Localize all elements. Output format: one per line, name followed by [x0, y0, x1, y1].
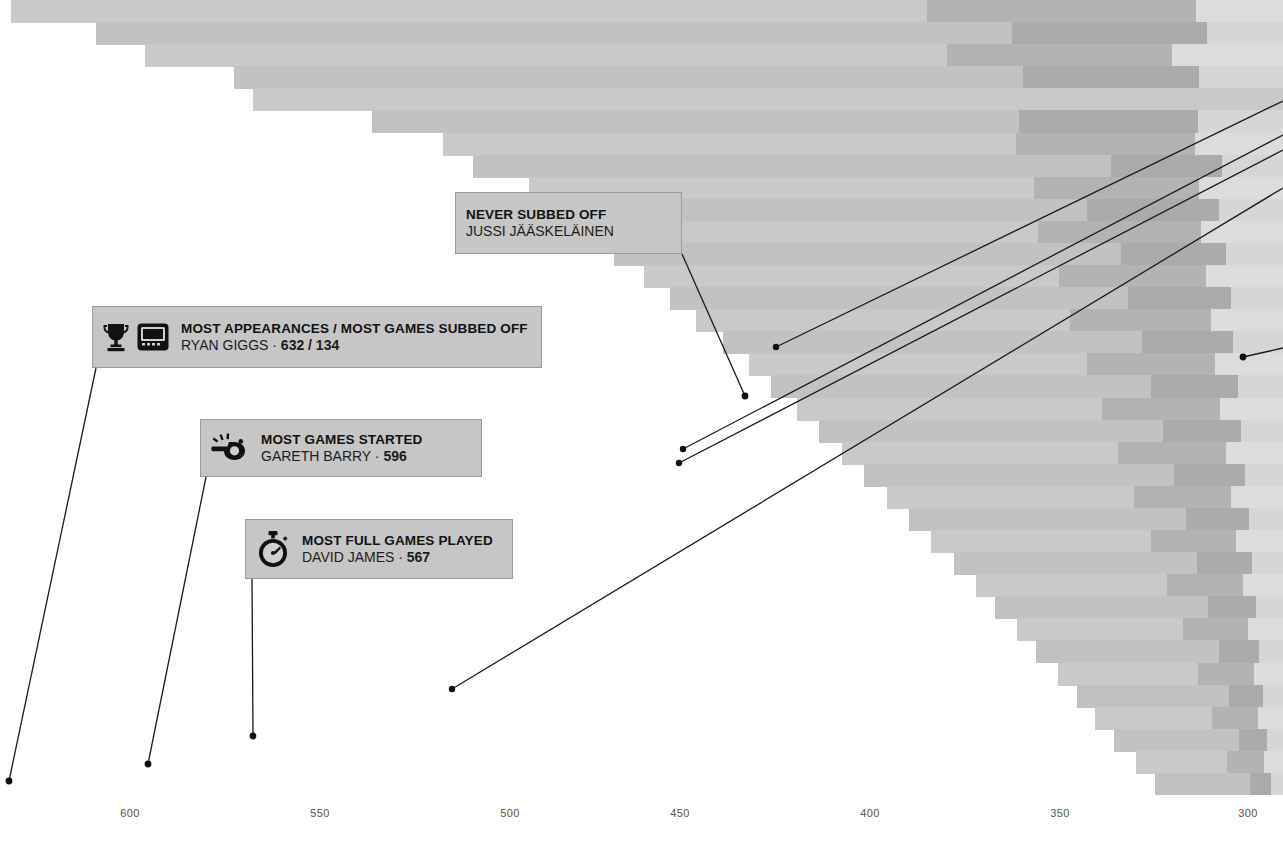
bar-segment-full-games [145, 44, 947, 67]
callout-separator: · [398, 549, 403, 565]
callout-text: MOST APPEARANCES / MOST GAMES SUBBED OFF… [181, 321, 528, 354]
callout-most-full-games-played[interactable]: MOST FULL GAMES PLAYED DAVID JAMES · 567 [245, 519, 513, 579]
bar-segment-subbed-off [1111, 155, 1223, 178]
bar-segment-full-games [931, 530, 1150, 553]
bar-row [954, 552, 1283, 575]
bar-segment-subbed-on [1211, 309, 1283, 332]
callout-never-subbed-off[interactable]: NEVER SUBBED OFF JUSSI JÄÄSKELÄINEN [455, 192, 682, 254]
bar-segment-full-games [443, 133, 1016, 156]
bar-chart-plot [0, 0, 1283, 795]
stopwatch-icon [256, 531, 290, 567]
bar-segment-subbed-on [1206, 265, 1283, 288]
bar-segment-subbed-off [1174, 464, 1245, 487]
bar-segment-subbed-off [1087, 353, 1215, 376]
whistle-icon [211, 433, 249, 463]
bar-segment-full-games [723, 331, 1142, 354]
bar-segment-full-games [909, 508, 1186, 531]
callout-separator: · [375, 448, 380, 464]
trophy-icon [103, 322, 129, 352]
callout-most-games-started[interactable]: MOST GAMES STARTED GARETH BARRY · 596 [200, 419, 482, 477]
bar-row [11, 0, 1283, 23]
axis-tick-450: 450 [670, 807, 690, 819]
bar-segment-subbed-off [1034, 177, 1199, 200]
bar-segment-subbed-on [1220, 398, 1283, 421]
axis-tick-500: 500 [500, 807, 520, 819]
callout-text: NEVER SUBBED OFF JUSSI JÄÄSKELÄINEN [466, 207, 614, 240]
bar-row [372, 110, 1283, 133]
bar-row [1017, 618, 1283, 641]
bar-row [797, 398, 1283, 421]
bar-segment-full-games [1095, 707, 1212, 730]
callout-subline: RYAN GIGGS · 632 / 134 [181, 337, 528, 353]
infographic-canvas: 600550500450400350300 NEVER SUBBED OFF J… [0, 0, 1283, 846]
bar-segment-subbed-off [1183, 618, 1248, 641]
bar-segment-subbed-off [1102, 398, 1220, 421]
callout-headline: NEVER SUBBED OFF [466, 207, 614, 223]
bar-segment-subbed-off [1208, 596, 1256, 619]
bar-segment-subbed-off [1118, 442, 1226, 465]
bar-row [1155, 773, 1283, 795]
callout-text: MOST GAMES STARTED GARETH BARRY · 596 [261, 432, 422, 465]
bar-segment-full-games [1017, 618, 1183, 641]
bar-segment-subbed-on [1226, 442, 1283, 465]
bar-segment-subbed-on [1236, 530, 1283, 553]
callout-headline: MOST GAMES STARTED [261, 432, 422, 448]
bar-row [749, 353, 1283, 376]
bar-row [864, 464, 1283, 487]
bar-segment-subbed-on [1196, 0, 1283, 23]
bar-segment-full-games [670, 287, 1128, 310]
bar-segment-full-games [749, 353, 1088, 376]
callout-headline: MOST APPEARANCES / MOST GAMES SUBBED OFF [181, 321, 528, 337]
bar-segment-full-games [253, 88, 1283, 111]
bar-segment-subbed-off [1012, 22, 1207, 45]
bar-segment-full-games [644, 265, 1059, 288]
bar-segment-subbed-on [1231, 287, 1283, 310]
bar-row [1136, 751, 1283, 774]
bar-segment-subbed-on [1233, 331, 1283, 354]
callout-icons [256, 531, 290, 567]
bar-segment-subbed-off [1163, 420, 1240, 443]
bar-segment-subbed-on [1248, 618, 1283, 641]
bar-segment-subbed-on [1195, 133, 1283, 156]
bar-segment-subbed-off [1121, 243, 1226, 266]
bar-segment-full-games [954, 552, 1197, 575]
bar-segment-full-games [819, 420, 1163, 443]
callout-player-name: DAVID JAMES [302, 549, 394, 565]
callout-subline: JUSSI JÄÄSKELÄINEN [466, 223, 614, 239]
bar-row [670, 287, 1283, 310]
bar-segment-subbed-on [1258, 707, 1283, 730]
bar-segment-subbed-off [1239, 729, 1267, 752]
bar-segment-subbed-on [1215, 353, 1283, 376]
bar-segment-subbed-off [1151, 375, 1237, 398]
bar-row [1077, 685, 1283, 708]
bar-segment-subbed-on [1263, 685, 1283, 708]
bar-row [644, 265, 1283, 288]
bar-segment-full-games [797, 398, 1102, 421]
bar-segment-full-games [1058, 663, 1198, 686]
bar-segment-subbed-on [1201, 221, 1283, 244]
bar-segment-subbed-on [1219, 199, 1283, 222]
bar-segment-subbed-off [1038, 221, 1202, 244]
axis-tick-550: 550 [310, 807, 330, 819]
bar-segment-subbed-off [927, 0, 1197, 23]
bar-segment-full-games [372, 110, 1019, 133]
bar-segment-subbed-on [1256, 596, 1283, 619]
bar-segment-full-games [976, 574, 1167, 597]
callout-value: 632 / 134 [281, 337, 339, 353]
bar-row [253, 88, 1283, 111]
callout-most-appearances[interactable]: MOST APPEARANCES / MOST GAMES SUBBED OFF… [92, 306, 542, 368]
bar-segment-subbed-off [1212, 707, 1258, 730]
bar-segment-subbed-off [1219, 640, 1260, 663]
bar-segment-subbed-off [1186, 508, 1248, 531]
bar-row [771, 375, 1283, 398]
bar-segment-subbed-on [1243, 574, 1283, 597]
bar-segment-subbed-off [1227, 751, 1263, 774]
callout-value: 567 [407, 549, 430, 565]
bar-segment-subbed-off [1250, 773, 1271, 795]
bar-segment-full-games [696, 309, 1069, 332]
bar-segment-subbed-off [1229, 685, 1263, 708]
bar-row [1095, 707, 1283, 730]
callout-icons [103, 322, 169, 352]
bar-segment-full-games [842, 442, 1118, 465]
bar-segment-subbed-on [1207, 22, 1283, 45]
